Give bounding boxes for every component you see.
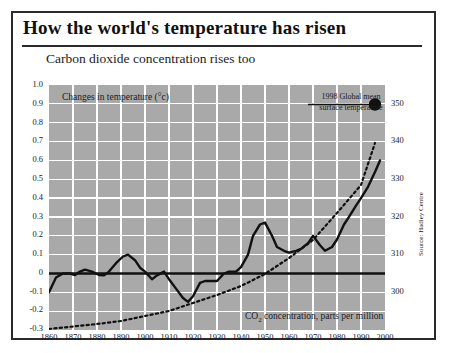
chart-canvas [49,85,385,330]
y-tick-label: -0.2 [17,304,43,314]
y-tick-label: 0.9 [17,98,43,108]
y2-tick-label: 340 [391,135,417,145]
y-tick-label: 0.6 [17,154,43,164]
y-tick-label: 1.0 [17,79,43,89]
co2-label-prefix: CO [245,311,258,321]
source-attribution: Source: Hadley Centre [417,192,425,256]
y2-tick-label: 320 [391,211,417,221]
co2-series-label: CO2 concentration, parts per million [245,311,383,324]
x-tick-label: 2000 [370,332,400,342]
y2-tick-label: 300 [391,286,417,296]
y2-tick-label: 350 [391,98,417,108]
y-tick-label: 0.7 [17,135,43,145]
gridlines [49,85,385,330]
chart-subtitle: Carbon dioxide concentration rises too [46,51,376,67]
temperature-series-label: Changes in temperature (°c) [62,92,169,102]
y-tick-label: 0.2 [17,229,43,239]
callout-1998-line2: surface temperature [319,103,382,112]
chart-figure: How the world's temperature has risen Ca… [11,11,436,340]
callout-1998-line1: 1998 Global mean [321,92,380,101]
plot-area [49,85,385,330]
y-tick-label: 0.4 [17,192,43,202]
y2-tick-label: 330 [391,173,417,183]
title-divider [22,45,422,47]
callout-1998-label: 1998 Global mean surface temperature [310,91,392,113]
y-tick-label: 0.1 [17,248,43,258]
y-tick-label: 0 [17,267,43,277]
y-tick-label: 0.5 [17,173,43,183]
temperature-series [49,160,380,302]
y-tick-label: 0.3 [17,211,43,221]
page-title: How the world's temperature has risen [23,17,423,39]
co2-label-suffix: concentration, parts per million [262,311,384,321]
y-tick-label: -0.1 [17,286,43,296]
y-tick-label: 0.8 [17,117,43,127]
y2-tick-label: 310 [391,248,417,258]
